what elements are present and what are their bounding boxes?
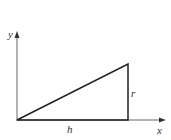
triangle-diagram: y x h r — [0, 0, 171, 140]
y-axis-label: y — [7, 28, 13, 40]
x-axis-arrow-icon — [159, 118, 166, 123]
height-label-r: r — [131, 87, 136, 99]
y-axis-arrow-icon — [15, 31, 20, 38]
triangle — [17, 64, 128, 120]
x-axis-label: x — [156, 124, 162, 136]
base-label-h: h — [67, 123, 73, 135]
